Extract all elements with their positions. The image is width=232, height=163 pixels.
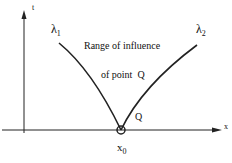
t-axis-arrow-icon [22, 10, 27, 19]
caption-line1: Range of influence [84, 41, 160, 51]
lambda2-label: λ2 [196, 23, 206, 38]
characteristic-lambda1 [59, 43, 121, 130]
lambda2-subscript: 2 [202, 29, 206, 38]
x-axis-label: x [224, 123, 228, 131]
origin-subscript: 0 [123, 147, 127, 156]
lambda1-subscript: 1 [57, 29, 61, 38]
lambda1-label: λ1 [51, 23, 61, 38]
x-axis-arrow-icon [212, 128, 222, 133]
point-q-label: Q [135, 112, 142, 122]
caption-line2: of point Q [101, 70, 145, 80]
characteristic-lambda2 [121, 45, 197, 130]
t-axis-label: t [32, 4, 34, 12]
origin-label: x0 [117, 142, 127, 156]
